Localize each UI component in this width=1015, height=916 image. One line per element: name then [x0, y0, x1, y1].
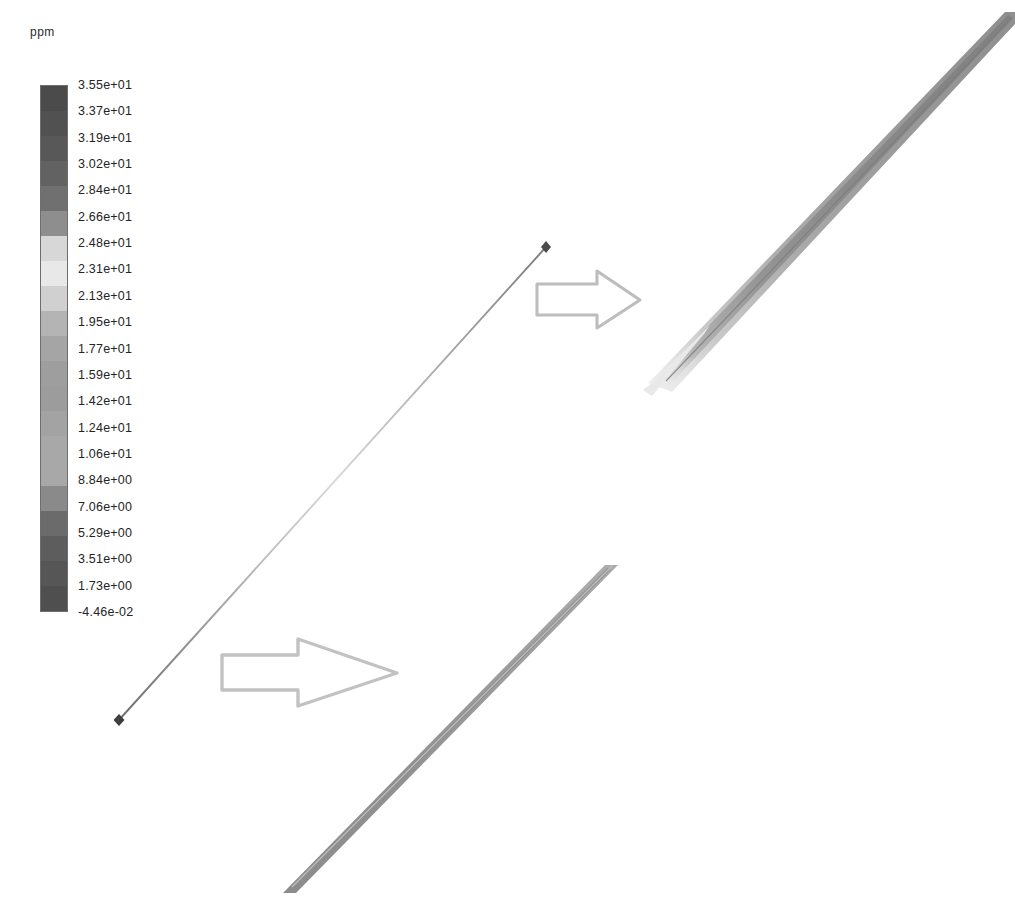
upper-band-edge: [666, 18, 1012, 381]
colorbar-band-13: [41, 411, 67, 436]
lower-band-top-edge: [292, 566, 612, 887]
colorbar-band-14: [41, 436, 67, 461]
reference-line-stroke: [119, 247, 546, 720]
colorbar-band-11: [41, 361, 67, 386]
colorbar-band-18: [41, 536, 67, 561]
colorbar-gradient: [40, 85, 68, 612]
colorbar-band-15: [41, 461, 67, 486]
flow-arrow-upper-outline: [537, 271, 640, 328]
colorbar: [40, 85, 68, 612]
colorbar-band-16: [41, 486, 67, 511]
contour-geometry: [100, 0, 1015, 916]
colorbar-band-9: [41, 311, 67, 336]
upper-contour-band: [643, 12, 1015, 396]
colorbar-band-1: [41, 111, 67, 136]
colorbar-band-2: [41, 136, 67, 161]
lower-contour-band: [283, 565, 618, 893]
colorbar-band-6: [41, 236, 67, 261]
colorbar-band-10: [41, 336, 67, 361]
flow-arrow-upper: [537, 271, 640, 328]
colorbar-band-5: [41, 211, 67, 236]
contour-plot-canvas: ppm 3.55e+013.37e+013.19e+013.02e+012.84…: [0, 0, 1015, 916]
colorbar-band-8: [41, 286, 67, 311]
colorbar-band-7: [41, 261, 67, 286]
upper-band-core-streak: [652, 15, 1013, 389]
colorbar-band-3: [41, 161, 67, 186]
colorbar-band-0: [41, 86, 67, 111]
plot-field: [100, 0, 1015, 916]
flow-arrow-lower: [222, 639, 397, 706]
colorbar-band-19: [41, 561, 67, 586]
colorbar-band-12: [41, 386, 67, 411]
colorbar-band-17: [41, 511, 67, 536]
colorbar-band-20: [41, 586, 67, 611]
legend-unit-label: ppm: [30, 25, 55, 39]
colorbar-band-4: [41, 186, 67, 211]
flow-arrow-lower-outline: [222, 639, 397, 706]
